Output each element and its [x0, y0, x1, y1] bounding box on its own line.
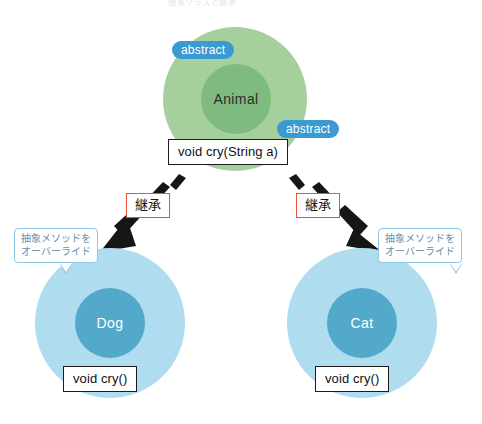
- dog-note-tail-inner: [60, 263, 72, 272]
- dog-override-note: 抽象メソッドを オーバーライド: [14, 228, 98, 263]
- abstract-badge-method: abstract: [277, 120, 339, 138]
- cat-method-signature: void cry(): [315, 366, 389, 392]
- cat-override-note-line1: 抽象メソッドを: [385, 232, 455, 245]
- inheritance-label-left: 継承: [126, 193, 170, 218]
- inheritance-label-right: 継承: [296, 193, 340, 218]
- dog-override-note-line1: 抽象メソッドを: [21, 232, 91, 245]
- dog-override-note-line2: オーバーライド: [21, 245, 91, 258]
- top-caption: 抽象クラスと継承: [168, 0, 318, 7]
- diagram-canvas: 抽象クラスと継承 Animal abstract abstract void c…: [0, 0, 482, 424]
- cat-note-tail-inner: [450, 263, 462, 272]
- cat-override-note-line2: オーバーライド: [385, 245, 455, 258]
- cat-override-note: 抽象メソッドを オーバーライド: [378, 228, 462, 263]
- animal-class-label: Animal: [176, 91, 296, 107]
- abstract-badge-class: abstract: [172, 41, 234, 59]
- dog-class-label: Dog: [50, 315, 170, 331]
- cat-class-label: Cat: [302, 315, 422, 331]
- dog-method-signature: void cry(): [63, 366, 137, 392]
- animal-method-signature: void cry(String a): [168, 139, 288, 165]
